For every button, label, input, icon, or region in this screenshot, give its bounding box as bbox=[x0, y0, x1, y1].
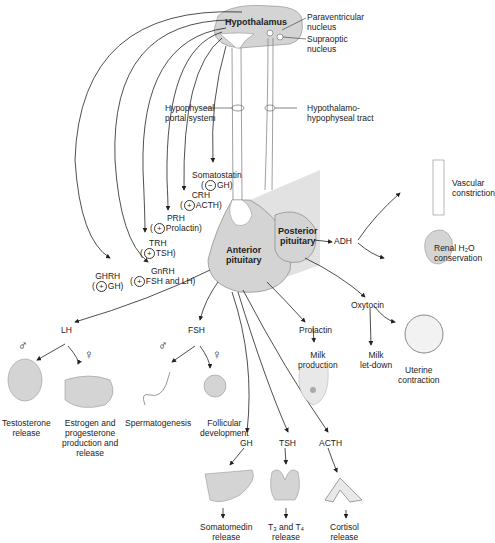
milk-production-label: Milkproduction bbox=[298, 350, 338, 370]
acth-label: ACTH bbox=[319, 438, 342, 448]
ovary-illustration bbox=[65, 376, 113, 408]
tsh-label: TSH bbox=[279, 438, 296, 448]
anterior-pituitary-label: Anteriorpituitary bbox=[226, 245, 262, 265]
breast-illustration bbox=[299, 368, 328, 405]
male-symbol: ♂ bbox=[158, 341, 168, 351]
oxytocin-label: Oxytocin bbox=[351, 300, 384, 310]
uterus-illustration bbox=[405, 315, 443, 353]
supraoptic-label: Supraopticnucleus bbox=[307, 34, 348, 54]
adh-label: ADH bbox=[334, 236, 352, 246]
uterine-label: Uterinecontraction bbox=[398, 365, 440, 385]
sperm-illustration bbox=[143, 372, 170, 405]
gnrh-label: GnRH(+FSH and LH) bbox=[130, 266, 195, 287]
trh-label: TRH(+TSH) bbox=[140, 238, 176, 259]
paraventricular-label: Paraventricularnucleus bbox=[307, 12, 364, 32]
testis-illustration bbox=[8, 359, 42, 401]
estrogen-label: Estrogen andprogesteroneproduction andre… bbox=[62, 418, 118, 458]
somatostatin-label: Somatostatin(−GH) bbox=[192, 170, 242, 191]
hh-tract-label: Hypothalamo-hypophyseal tract bbox=[307, 103, 374, 123]
gh-label: GH bbox=[240, 438, 253, 448]
fsh-label: FSH bbox=[188, 325, 205, 335]
liver-illustration bbox=[205, 470, 254, 502]
crh-label: CRH(+ACTH) bbox=[180, 190, 222, 211]
vascular-label: Vascularconstriction bbox=[452, 178, 495, 198]
male-symbol: ♂ bbox=[18, 341, 28, 351]
hh-tract bbox=[265, 38, 273, 190]
follicle-illustration bbox=[204, 375, 226, 397]
t3t4-label: T₃ and T₄release bbox=[268, 522, 304, 542]
prolactin-label: Prolactin bbox=[299, 325, 332, 335]
testosterone-label: Testosteronerelease bbox=[2, 418, 51, 438]
posterior-pituitary-label: Posteriorpituitary bbox=[278, 226, 318, 246]
adrenal-illustration bbox=[325, 478, 362, 502]
lh-label: LH bbox=[61, 325, 72, 335]
portal-system-label: Hypophysealportal system bbox=[165, 103, 216, 123]
hypothalamus-label: Hypothalamus bbox=[225, 17, 287, 27]
follicular-label: Folliculardevelopment bbox=[200, 418, 249, 438]
somatomedin-label: Somatomedinrelease bbox=[200, 522, 252, 542]
vessel-illustration bbox=[433, 160, 444, 215]
spermatogenesis-label: Spermatogenesis bbox=[125, 418, 191, 428]
ghrh-label: GHRH(+GH) bbox=[92, 271, 123, 292]
cortisol-label: Cortisolrelease bbox=[330, 522, 359, 542]
milk-letdown-label: Milklet-down bbox=[360, 350, 392, 370]
female-symbol: ♀ bbox=[212, 350, 222, 360]
prh-label: PRH(+Prolactin) bbox=[150, 213, 202, 234]
thyroid-illustration bbox=[271, 470, 300, 500]
female-symbol: ♀ bbox=[84, 350, 94, 360]
renal-label: Renal H₂Oconservation bbox=[434, 243, 482, 263]
